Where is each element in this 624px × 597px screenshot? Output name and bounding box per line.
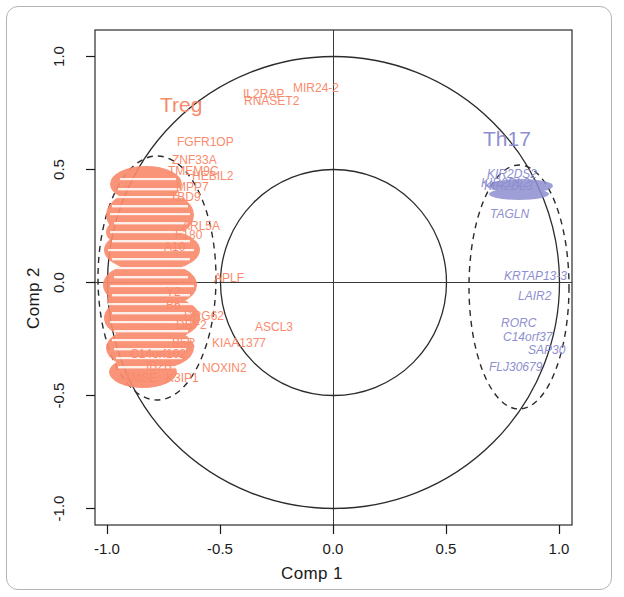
gene-label-th17: KRTAP13-3 — [504, 270, 567, 282]
gene-label-treg: ASCL3 — [255, 321, 293, 333]
x-tick-label-0: -1.0 — [81, 540, 133, 557]
gene-label-treg: KIAA1377 — [212, 337, 266, 349]
x-tick-label-2: 0.0 — [307, 540, 359, 557]
y-tick-label-3: -0.5 — [50, 370, 67, 422]
x-axis-ticks — [108, 525, 560, 534]
gene-label-th17: FLJ30679 — [489, 361, 542, 373]
gene-label-treg: TBD9 — [170, 191, 201, 203]
gene-label-treg: MIR24-2 — [293, 82, 339, 94]
gene-label-th17: TAGLN — [490, 208, 529, 220]
gene-label-th17: KIR2DL3 — [484, 180, 533, 192]
group-label-th17: Th17 — [483, 127, 531, 151]
gene-label-treg: TMSE — [124, 372, 157, 384]
y-tick-label-4: -1.0 — [50, 483, 67, 535]
y-tick-label-2: 0.0 — [50, 257, 67, 309]
x-tick-label-1: -0.5 — [194, 540, 246, 557]
gene-label-th17: RORC — [501, 317, 536, 329]
y-tick-label-0: 1.0 — [50, 31, 67, 83]
group-label-treg: Treg — [160, 93, 202, 117]
x-tick-label-4: 1.0 — [533, 540, 585, 557]
x-axis-title: Comp 1 — [0, 564, 624, 584]
gene-label-treg: K3IP1 — [166, 372, 199, 384]
y-axis-ticks — [86, 57, 95, 509]
gene-label-treg: NOXIN2 — [202, 362, 247, 374]
gene-label-treg: FGFR1OP — [177, 136, 234, 148]
x-tick-label-3: 0.5 — [420, 540, 472, 557]
y-tick-label-1: 0.5 — [50, 144, 67, 196]
gene-label-th17: C14orf37 — [503, 331, 552, 343]
pca-correlation-circle-figure: Comp 1 Comp 2 -1.0 -0.5 0.0 0.5 1.0 1.0 … — [0, 0, 624, 597]
gene-label-treg: IL2RAP — [243, 88, 284, 100]
gene-label-th17: LAIR2 — [518, 290, 551, 302]
gene-label-treg: Y2 — [166, 286, 181, 298]
gene-label-treg: B6 — [166, 299, 181, 311]
gene-label-treg: DBF2 — [176, 319, 207, 331]
y-axis-title: Comp 2 — [24, 218, 44, 378]
gene-label-th17: SAP30 — [528, 344, 565, 356]
gene-label-treg: A10 — [164, 241, 185, 253]
gene-label-treg: APLF — [214, 272, 244, 284]
